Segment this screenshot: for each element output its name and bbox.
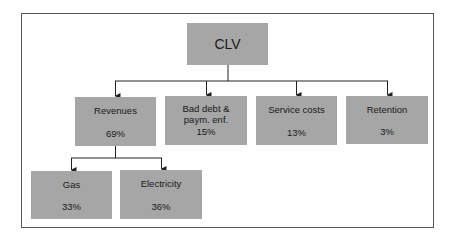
node-label: Electricity xyxy=(120,178,202,189)
node-value: 69% xyxy=(75,128,156,139)
node-service-costs: Service costs 13% xyxy=(256,96,337,145)
node-label: Retention xyxy=(346,104,428,115)
node-value: 13% xyxy=(256,127,337,138)
node-label: Service costs xyxy=(256,104,337,115)
node-revenues: Revenues 69% xyxy=(75,97,156,146)
node-value: 33% xyxy=(31,201,112,212)
node-value: 3% xyxy=(346,126,428,137)
node-value: 15% xyxy=(165,126,247,137)
node-label-line2: paym. enf. xyxy=(165,114,247,125)
node-label: Revenues xyxy=(75,105,156,116)
node-value: 36% xyxy=(120,201,202,212)
node-label-line1: Bad debt & xyxy=(165,103,247,114)
node-label: Bad debt & paym. enf. xyxy=(165,103,247,125)
node-electricity: Electricity 36% xyxy=(120,170,202,219)
node-retention: Retention 3% xyxy=(346,96,428,144)
node-label: CLV xyxy=(187,36,268,52)
node-gas: Gas 33% xyxy=(31,171,112,219)
node-clv: CLV xyxy=(187,23,268,65)
node-bad-debt: Bad debt & paym. enf. 15% xyxy=(165,96,247,145)
node-label: Gas xyxy=(31,179,112,190)
